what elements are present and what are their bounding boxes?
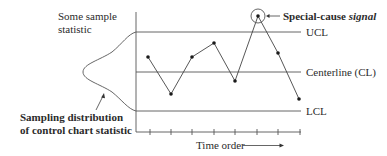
data-point	[233, 79, 237, 83]
data-point	[297, 97, 301, 101]
distribution-pointer-line	[96, 96, 103, 110]
data-point	[276, 51, 280, 55]
distribution-label-line2: of control chart statistic	[20, 124, 132, 136]
data-point	[212, 41, 216, 45]
distribution-pointer-arrowhead-icon	[101, 93, 105, 98]
x-axis-label: Time order	[196, 139, 245, 151]
data-point	[146, 55, 150, 59]
signal-annotation-bold: Special-cause	[283, 10, 349, 22]
distribution-label-line1: Sampling distribution	[20, 111, 123, 123]
data-points	[146, 14, 301, 101]
y-axis-label-line1: Some sample	[58, 10, 117, 22]
control-chart-diagram: Some sample statistic UCL Centerline (CL…	[0, 0, 387, 156]
signal-annotation-italic: signal	[348, 10, 377, 22]
y-axis-label-line2: statistic	[58, 23, 92, 35]
data-point	[190, 55, 194, 59]
data-point	[169, 92, 173, 96]
centerline-label: Centerline (CL)	[306, 66, 376, 79]
sampling-distribution-curve	[83, 32, 136, 111]
data-series-line	[148, 16, 299, 99]
signal-annotation: Special-cause signal	[283, 10, 377, 22]
lcl-label: LCL	[306, 105, 327, 117]
signal-pointer-arrowhead-icon	[266, 14, 270, 18]
time-arrow-head-icon	[280, 144, 285, 148]
data-point-signal	[256, 14, 260, 18]
ucl-label: UCL	[306, 26, 328, 38]
